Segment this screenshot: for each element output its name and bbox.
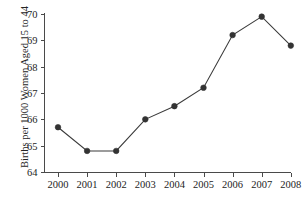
x-tick-label: 2005 — [193, 179, 214, 190]
data-point-marker — [288, 43, 294, 49]
x-axis-ticks: 200020012002200320042005200620072008 — [48, 173, 302, 190]
x-tick-label: 2001 — [77, 179, 98, 190]
y-tick-label: 69 — [27, 35, 38, 46]
y-tick-label: 70 — [27, 9, 38, 20]
x-tick-label: 2004 — [164, 179, 186, 190]
x-tick-label: 2000 — [48, 179, 69, 190]
series-markers — [55, 14, 293, 154]
x-tick-label: 2006 — [222, 179, 243, 190]
line-chart: Births per 1000 Women Aged 15 to 44 6465… — [0, 0, 306, 198]
data-point-marker — [230, 32, 236, 38]
data-point-marker — [201, 85, 207, 91]
x-tick-label: 2008 — [280, 179, 301, 190]
data-point-marker — [172, 103, 178, 109]
x-tick-label: 2003 — [135, 179, 156, 190]
data-point-marker — [84, 148, 90, 154]
x-tick-label: 2002 — [106, 179, 127, 190]
y-tick-label: 68 — [27, 62, 38, 73]
y-axis-ticks: 64656667686970 — [27, 9, 45, 178]
x-tick-label: 2007 — [251, 179, 272, 190]
y-tick-label: 64 — [27, 167, 38, 178]
y-tick-label: 65 — [27, 141, 38, 152]
data-point-marker — [259, 14, 265, 20]
plot-area: 64656667686970 2000200120022003200420052… — [0, 0, 306, 198]
y-tick-label: 66 — [27, 114, 38, 125]
data-point-marker — [113, 148, 119, 154]
y-tick-label: 67 — [27, 88, 38, 99]
data-point-marker — [55, 124, 61, 130]
data-point-marker — [143, 117, 149, 123]
series-line-birth-rate — [58, 17, 291, 151]
